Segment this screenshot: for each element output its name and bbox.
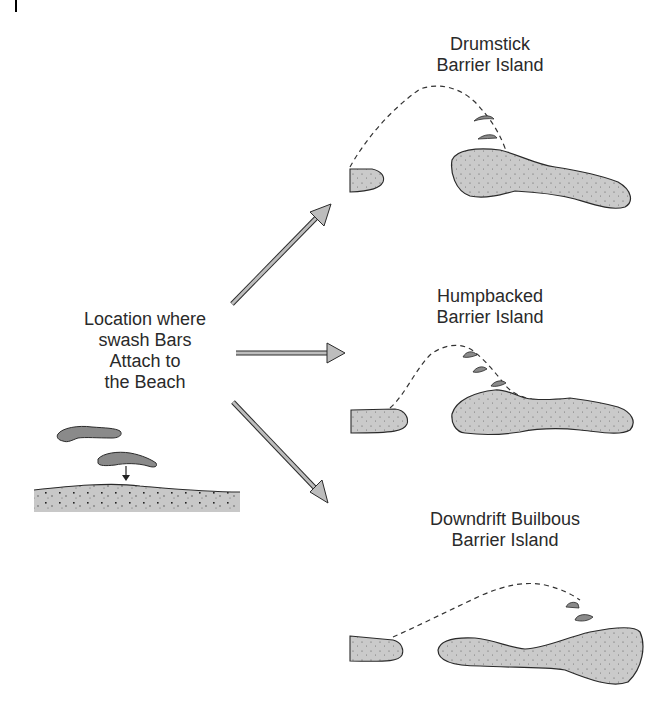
updrift-island (350, 169, 384, 192)
arrow-to-downdrift (233, 402, 328, 503)
swash-bar (474, 116, 494, 121)
title-line: Downdrift Builbous (400, 509, 610, 530)
swash-bar (575, 615, 593, 621)
drumstick-title: Drumstick Barrier Island (410, 34, 570, 76)
humpbacked-title: Humpbacked Barrier Island (410, 286, 570, 328)
title-line: Drumstick (410, 34, 570, 55)
title-line: Humpbacked (410, 286, 570, 307)
ebb-tidal-delta-outline (393, 583, 580, 637)
margin-mark (15, 0, 17, 12)
updrift-island (351, 409, 408, 433)
label-line: the Beach (60, 372, 230, 393)
label-line: swash Bars (60, 330, 230, 351)
beach (34, 484, 240, 512)
source-label: Location where swash Bars Attach to the … (60, 309, 230, 393)
label-line: Attach to (60, 351, 230, 372)
title-line: Barrier Island (410, 55, 570, 76)
swash-bar (463, 352, 477, 358)
downdrift-island-illustration (350, 583, 643, 684)
downdrift-bulbous-island (438, 628, 643, 684)
swash-bar-upper (57, 426, 121, 441)
attach-arrow-head (122, 475, 130, 481)
downdrift-title: Downdrift Builbous Barrier Island (400, 509, 610, 551)
title-line: Barrier Island (400, 530, 610, 551)
humpbacked-island (452, 390, 633, 435)
swash-bar (478, 135, 497, 139)
swash-bar (566, 602, 579, 608)
swash-bar (491, 381, 506, 387)
barrier-island-diagram: Drumstick Barrier Island Location where … (0, 0, 666, 709)
label-line: Location where (60, 309, 230, 330)
source-beach-illustration (34, 426, 240, 512)
swash-bar (473, 367, 487, 373)
drumstick-island-illustration (350, 86, 630, 208)
humpbacked-island-illustration (351, 345, 633, 434)
drumstick-island (452, 149, 631, 208)
title-line: Barrier Island (410, 307, 570, 328)
updrift-island (350, 636, 403, 661)
swash-bar-lower (98, 452, 157, 467)
arrow-to-humpbacked (236, 343, 345, 363)
arrow-to-drumstick (232, 204, 331, 304)
